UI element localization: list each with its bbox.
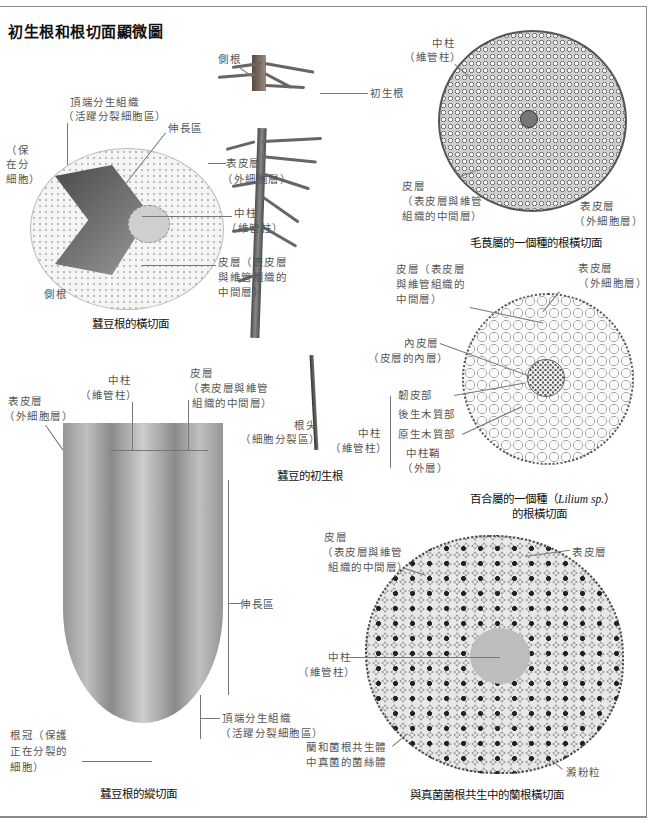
bb-cross-caption: 蠶豆根的橫切面 [92, 315, 169, 331]
lily-caption-close: ） [604, 492, 615, 506]
bb-long-label-apical-meristem-note: （活躍分裂細胞區） [220, 726, 324, 740]
ranunculus-label-stele-note: （維管柱） [404, 50, 462, 64]
lily-stele-image [527, 359, 565, 397]
lily-caption-text: 百合屬的一個種（ [470, 492, 558, 506]
bb-long-caption: 蠶豆根的縱切面 [100, 785, 177, 801]
orchid-label-cortex-note-1: （表皮層與維管 [322, 545, 403, 559]
seedling-lateral-root [265, 84, 305, 89]
leader-line [142, 216, 232, 217]
lily-label-phloem: 韌皮部 [398, 388, 433, 402]
lily-label-cortex-2: 與維管組織的 [396, 277, 465, 291]
orchid-label-starch: 澱粉粒 [566, 765, 601, 779]
lily-caption-species: Lilium sp. [558, 493, 604, 505]
lily-label-endodermis: 內皮層 [404, 336, 439, 350]
orchid-label-hyphae-1: 蘭和菌根共生體 [306, 740, 387, 754]
lily-label-pericycle: 中柱鞘 [406, 446, 441, 460]
lily-label-stele: 中柱 [358, 426, 381, 440]
lily-label-stele-note: （維管柱） [330, 441, 388, 455]
ranunculus-label-epidermis-note: （外細胞層） [574, 214, 643, 228]
bb-long-label-stele-note: （維管柱） [80, 388, 138, 402]
bb-long-label-epidermis-note: （外細胞層） [4, 409, 73, 423]
bb-cross-label-epidermis-note: （外細胞層） [222, 172, 291, 186]
lily-caption-line1: 百合屬的一個種（Lilium sp.） [470, 490, 615, 506]
bb-long-label-elongation-zone: 伸長區 [240, 597, 275, 611]
orchid-label-cortex: 皮層 [324, 530, 347, 544]
bb-cross-label-cortex-2: 與維管組織的 [218, 270, 287, 284]
bb-cross-label-apical-meristem: 頂端分生組織 [70, 95, 139, 109]
orchid-label-stele-note: （維管柱） [298, 665, 356, 679]
orchid-stele-image [470, 628, 530, 684]
leader-line [208, 163, 226, 164]
seedling-label-root-tip: 根尖 [294, 418, 317, 432]
bb-cross-label-rootcap-2: 在分 [6, 157, 29, 171]
leader-line [200, 718, 220, 719]
seedling-label-primary-root: 初生根 [370, 86, 405, 100]
bb-long-label-rootcap-2: 正在分裂的 [10, 744, 68, 758]
lily-label-cortex-3: 中間層） [396, 292, 442, 306]
bb-long-label-stele: 中柱 [108, 373, 131, 387]
page-frame-top [0, 6, 646, 7]
lily-label-epidermis: 表皮層 [578, 261, 613, 275]
lily-label-pericycle-note: （外層） [402, 461, 448, 475]
bb-cross-label-rootcap-3: 細胞） [6, 172, 41, 186]
lily-label-endodermis-note: （皮層的內層） [368, 351, 449, 365]
seedling-lateral-root [261, 195, 300, 223]
bb-cross-label-cortex-3: 中間層） [218, 285, 264, 299]
orchid-label-hyphae-2: 中真菌的菌絲體 [306, 755, 387, 769]
meristem-bracket [200, 695, 201, 739]
seedling-lateral-root [262, 137, 322, 143]
bb-cross-label-stele-note: （維管柱） [226, 221, 284, 235]
bb-cross-label-apical-meristem-note: （活躍分裂細胞區） [63, 109, 167, 123]
leader-line [350, 657, 500, 658]
ranunculus-label-epidermis: 表皮層 [580, 199, 615, 213]
ranunculus-label-cortex-note-1: （表皮層與維管 [402, 194, 483, 208]
page-title: 初生根和根切面顯微圖 [8, 20, 163, 41]
ranunculus-label-cortex-note-2: 組織的中間層） [402, 209, 483, 223]
leader-line [82, 761, 152, 762]
ranunculus-caption: 毛茛屬的一個種的根橫切面 [470, 234, 602, 250]
seedling-lateral-root [265, 62, 315, 74]
seedling-label-root-tip-note: （細胞分裂區） [240, 432, 321, 446]
orchid-label-stele: 中柱 [328, 650, 351, 664]
bb-long-label-rootcap-3: 細胞） [10, 760, 45, 774]
leader-line [132, 402, 133, 450]
bb-cross-label-lateral-root: 側根 [44, 287, 67, 301]
seedling-lateral-root [226, 140, 256, 151]
stele-bracket [390, 396, 391, 468]
seedling-caption: 蠶豆的初生根 [277, 467, 343, 483]
ranunculus-label-stele: 中柱 [432, 36, 455, 50]
bb-cross-label-rootcap-1: （保 [6, 143, 29, 157]
ranunculus-label-cortex: 皮層 [402, 179, 425, 193]
leader-line [45, 425, 63, 450]
seedling-label-lateral-root: 側根 [218, 52, 241, 66]
bb-long-label-rootcap-1: 根冠（保護 [10, 728, 68, 742]
lily-label-metaxylem: 後生木質部 [398, 407, 456, 421]
bb-long-label-cortex-note-1: （表皮層與維管 [188, 381, 269, 395]
ranunculus-stele-image [520, 110, 538, 128]
elongation-bracket [228, 480, 229, 695]
bb-long-label-cortex-note-2: 組織的中間層） [192, 396, 273, 410]
page-frame-bottom [0, 816, 647, 818]
page-frame-right [646, 6, 647, 816]
seedling-lateral-root [262, 155, 317, 164]
orchid-label-cortex-note-2: 組織的中間層） [328, 560, 409, 574]
lily-label-cortex-1: 皮層（表皮層 [396, 262, 465, 276]
lily-caption-line2: 的根橫切面 [512, 505, 567, 521]
lily-label-epidermis-note: （外細胞層） [578, 276, 647, 290]
bb-long-label-cortex: 皮層 [190, 366, 213, 380]
orchid-label-epidermis: 表皮層 [572, 545, 607, 559]
bb-long-label-epidermis: 表皮層 [8, 394, 43, 408]
leader-line [228, 603, 240, 604]
lily-label-protoxylem: 原生木質部 [398, 427, 456, 441]
leader-line [320, 93, 368, 94]
orchid-caption: 與真菌菌根共生中的蘭根橫切面 [410, 786, 564, 802]
leader-line [67, 123, 68, 165]
bb-cross-label-elongation-zone: 伸長區 [168, 121, 203, 135]
bb-cross-label-cortex-1: 皮層（表皮層 [218, 255, 287, 269]
leader-line [110, 450, 208, 451]
broad-bean-longitudinal-section-image [63, 423, 223, 723]
leader-line [188, 400, 189, 450]
broad-bean-stele-image [128, 205, 170, 243]
bb-cross-label-stele: 中柱 [234, 206, 257, 220]
leader-line [142, 265, 216, 266]
